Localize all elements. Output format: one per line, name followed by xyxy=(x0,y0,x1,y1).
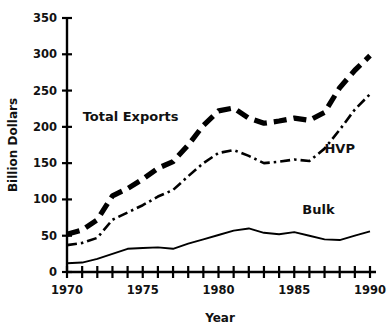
y-tick-label: 250 xyxy=(33,84,57,98)
x-tick-label: 1985 xyxy=(278,283,310,297)
series-line-bulk xyxy=(67,228,370,263)
y-tick-label: 350 xyxy=(33,11,57,25)
x-axis-tick-labels: 19701975198019851990 xyxy=(51,283,386,297)
x-tick-label: 1970 xyxy=(51,283,83,297)
x-axis-ticks xyxy=(67,266,370,278)
chart-container: 050100150200250300350 197019751980198519… xyxy=(0,0,391,331)
series-lines xyxy=(67,56,370,264)
y-tick-label: 300 xyxy=(33,47,57,61)
x-tick-label: 1990 xyxy=(354,283,386,297)
series-annotations: Total ExportsHVPBulk xyxy=(83,109,355,217)
y-tick-label: 150 xyxy=(33,156,57,170)
series-label-hvp: HVP xyxy=(324,141,354,156)
x-tick-label: 1980 xyxy=(202,283,234,297)
series-label-total-exports: Total Exports xyxy=(83,109,179,124)
y-tick-label: 100 xyxy=(33,192,57,206)
series-label-bulk: Bulk xyxy=(302,202,335,217)
x-axis-title: Year xyxy=(204,311,235,325)
y-tick-label: 50 xyxy=(41,229,57,243)
y-axis-tick-labels: 050100150200250300350 xyxy=(33,11,57,279)
line-chart: 050100150200250300350 197019751980198519… xyxy=(0,0,391,331)
y-tick-label: 0 xyxy=(49,265,57,279)
y-tick-label: 200 xyxy=(33,120,57,134)
x-tick-label: 1975 xyxy=(127,283,159,297)
y-axis-title: Billion Dollars xyxy=(6,98,20,192)
